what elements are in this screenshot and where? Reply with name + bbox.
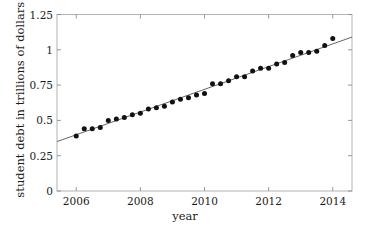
data-point — [330, 36, 335, 41]
data-point — [146, 107, 151, 112]
data-point — [202, 91, 207, 96]
data-point — [74, 133, 79, 138]
data-point — [106, 118, 111, 123]
data-point — [154, 105, 159, 110]
chart-figure: 00.250.50.7511.25 20062008201020122014 y… — [0, 0, 370, 232]
x-tick-label: 2012 — [255, 196, 282, 207]
data-point — [274, 61, 279, 66]
data-point — [210, 81, 215, 86]
data-point — [306, 50, 311, 55]
data-point — [266, 66, 271, 71]
data-point — [162, 104, 167, 109]
data-point — [250, 68, 255, 73]
data-point — [186, 95, 191, 100]
data-point — [258, 66, 263, 71]
data-point — [322, 43, 327, 48]
data-point — [114, 116, 119, 121]
data-point — [234, 74, 239, 79]
x-tick-label: 2006 — [63, 196, 90, 207]
plot-area-svg — [0, 0, 370, 232]
data-point — [82, 126, 87, 131]
data-point — [290, 53, 295, 58]
data-point — [98, 125, 103, 130]
data-point — [90, 126, 95, 131]
data-point — [122, 115, 127, 120]
data-point — [282, 60, 287, 65]
data-point — [178, 97, 183, 102]
data-point — [130, 112, 135, 117]
x-tick-label: 2008 — [127, 196, 154, 207]
data-point — [194, 92, 199, 97]
x-axis-title: year — [0, 211, 370, 223]
x-tick-label: 2010 — [191, 196, 218, 207]
plot-background — [57, 15, 352, 192]
y-axis-title: student debt in trillions of dollars — [15, 0, 27, 200]
axes-frame — [57, 15, 352, 192]
data-point — [314, 49, 319, 54]
data-point — [226, 78, 231, 83]
data-point — [298, 50, 303, 55]
data-point — [218, 81, 223, 86]
data-point — [138, 111, 143, 116]
data-point — [242, 74, 247, 79]
data-point — [170, 100, 175, 105]
x-tick-label: 2014 — [319, 196, 346, 207]
